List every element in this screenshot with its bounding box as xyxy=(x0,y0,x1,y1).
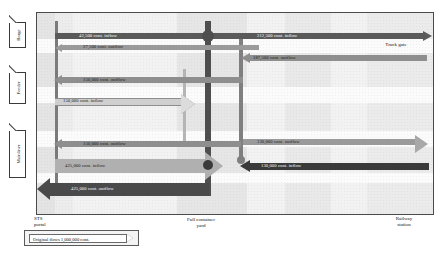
mode-tag-cap xyxy=(9,122,26,131)
flow-arrowhead-right xyxy=(415,135,428,153)
flow-arrowhead-right xyxy=(423,31,432,41)
flow-mainliner-outflow[interactable]: 150,000 cont. outflow xyxy=(61,141,241,147)
flow-label: 130,000 cont. inflow xyxy=(261,164,301,169)
flow-barge-outflow[interactable]: 27,500 cont. outflow xyxy=(61,45,259,50)
flow-label: 130,000 cont. outflow xyxy=(257,140,300,145)
flow-label: 425,000 cont. inflow xyxy=(65,164,105,169)
flow-arrowhead-left xyxy=(37,178,50,200)
flow-arrowhead-left xyxy=(54,139,62,149)
flow-label: 212,500 cont. inflow xyxy=(257,34,297,39)
flow-yard-truck-inflow[interactable]: 212,500 cont. inflow xyxy=(243,33,423,39)
zone-line-2: portal xyxy=(34,222,74,228)
mode-tag-cap xyxy=(9,64,26,73)
flow-mainliner-inflow[interactable]: 425,000 cont. inflow xyxy=(55,159,205,173)
mode-tag-cap xyxy=(9,14,26,23)
mode-tag-label: Barge xyxy=(15,29,20,40)
flow-label: 42,500 cont. inflow xyxy=(79,34,117,39)
zone-caption-full-container-yard: Full container yard xyxy=(166,217,236,230)
flow-label: 150,000 cont. outflow xyxy=(83,78,126,83)
zone-caption-sts-portal: STS portal xyxy=(34,216,74,229)
legend-bar: Original flows 1,000,000 cont. xyxy=(29,234,127,243)
mode-tag-label: Feeder xyxy=(15,81,20,94)
flow-label: 187,500 cont. outflow xyxy=(253,56,296,61)
mode-tag-mainliner[interactable]: Mainliner xyxy=(9,130,26,178)
zone-caption-railway-station: Railway station xyxy=(376,216,432,229)
junction-node-rail xyxy=(203,160,213,170)
flow-diagram-canvas: 42,500 cont. inflow 27,500 cont. outflow… xyxy=(0,0,446,255)
flow-yard-rail-outflow[interactable]: 130,000 cont. outflow xyxy=(243,139,415,145)
mode-tag-label: Mainliner xyxy=(15,145,20,164)
junction-node-mid xyxy=(237,156,245,164)
flow-yard-rail-inflow[interactable]: 130,000 cont. inflow xyxy=(249,163,429,170)
flow-arrowhead-left xyxy=(55,44,62,52)
legend-arrowhead-icon xyxy=(127,234,133,242)
flow-arrowhead-left xyxy=(54,75,62,85)
flow-arrowhead-left xyxy=(241,53,250,63)
flow-mainliner-outflow-large[interactable]: 425,000 cont. outflow xyxy=(49,183,209,196)
legend-label: Original flows 1,000,000 cont. xyxy=(33,237,89,242)
zone-line-2: station xyxy=(376,222,432,228)
mode-tag-barge[interactable]: Barge xyxy=(9,22,26,48)
legend-label-text: Original flows xyxy=(33,237,60,242)
legend-label-value: 1,000,000 cont. xyxy=(61,237,90,242)
mode-tag-feeder[interactable]: Feeder xyxy=(9,72,26,104)
flow-arrowhead-right xyxy=(181,94,195,114)
flow-label: 150,000 cont. outflow xyxy=(83,142,126,147)
flow-label: 150,000 cont. inflow xyxy=(63,99,103,104)
stripe-4 xyxy=(37,173,433,183)
flow-label: 425,000 cont. outflow xyxy=(71,187,114,192)
zone-line-1: Truck gate xyxy=(368,42,424,48)
scale-legend: Original flows 1,000,000 cont. xyxy=(24,230,139,246)
zone-caption-truck-gate: Truck gate xyxy=(368,42,424,48)
flow-feeder-outflow[interactable]: 150,000 cont. outflow xyxy=(61,77,243,83)
junction-node-top xyxy=(202,30,214,42)
zone-line-2: yard xyxy=(166,223,236,229)
flow-yard-truck-outflow[interactable]: 187,500 cont. outflow xyxy=(249,55,427,61)
flow-feeder-inflow[interactable]: 150,000 cont. inflow xyxy=(55,98,181,104)
flow-label: 27,500 cont. outflow xyxy=(83,45,123,50)
